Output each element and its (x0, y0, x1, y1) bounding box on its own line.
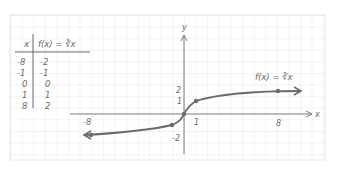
table-cell-x: 1 (22, 90, 27, 100)
function-label: f(x) = ∛x (255, 72, 294, 82)
table-cell-fx: 2 (45, 101, 50, 111)
tick-label-x-neg8: -8 (83, 118, 91, 127)
graph-paper-grid (10, 15, 325, 160)
table-cell-fx: 0 (45, 79, 50, 89)
table-header-fx: f(x) = ∛x (38, 39, 77, 49)
point-neg8-neg2 (89, 133, 93, 137)
table-cell-fx: -1 (40, 68, 48, 78)
tick-label-y-2: 2 (176, 86, 181, 95)
point-1-1 (194, 99, 198, 103)
table-header-x: x (23, 39, 30, 49)
tick-label-x-1: 1 (194, 118, 199, 127)
table-cell-x: -8 (17, 57, 26, 67)
tick-label-y-1: 1 (177, 97, 182, 106)
tick-label-x-8: 8 (276, 119, 281, 128)
y-axis-label: y (181, 23, 187, 32)
cube-root-graph-figure: x f(x) = ∛x -8 -2 -1 -1 0 0 1 1 8 2 x y … (0, 0, 337, 172)
point-origin (182, 112, 186, 116)
table-cell-fx: 1 (45, 90, 50, 100)
table-cell-x: 8 (22, 101, 28, 111)
x-axis-label: x (314, 110, 320, 119)
table-cell-fx: -2 (40, 57, 48, 67)
tick-label-y-neg2: -2 (172, 134, 180, 143)
table-cell-x: 0 (22, 79, 27, 89)
point-8-2 (276, 89, 280, 93)
table-cell-x: -1 (17, 68, 25, 78)
point-neg1-neg1 (170, 123, 174, 127)
